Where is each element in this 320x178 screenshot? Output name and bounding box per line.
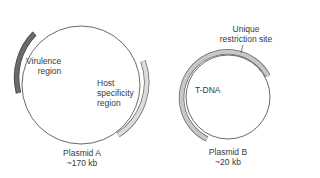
plasmid-b-size: ~20 kb xyxy=(203,157,253,167)
site-line2: restriction site xyxy=(216,34,276,44)
host-line1: Host xyxy=(97,78,134,88)
plasmid-a-caption: Plasmid A ~170 kb xyxy=(56,148,108,168)
plasmid-b-caption: Plasmid B ~20 kb xyxy=(203,147,253,167)
virulence-region-label: Virulence region xyxy=(26,56,61,76)
host-line3: region xyxy=(97,98,134,108)
virulence-line1: Virulence xyxy=(26,56,61,66)
site-line1: Unique xyxy=(216,24,276,34)
plasmid-b-name: Plasmid B xyxy=(203,147,253,157)
plasmid-a-size: ~170 kb xyxy=(56,158,108,168)
restriction-site-label: Unique restriction site xyxy=(216,24,276,44)
plasmid-b-backbone xyxy=(186,55,270,139)
t-dna-label: T-DNA xyxy=(195,85,221,95)
host-specificity-label: Host specificity region xyxy=(97,78,134,108)
host-line2: specificity xyxy=(97,88,134,98)
virulence-line2: region xyxy=(26,66,61,76)
plasmid-a-name: Plasmid A xyxy=(56,148,108,158)
